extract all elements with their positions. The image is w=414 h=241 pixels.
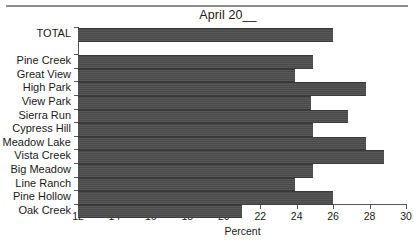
bar-label: Line Ranch — [15, 177, 71, 191]
bar-label: High Park — [23, 81, 71, 95]
bar-label: View Park — [22, 95, 71, 109]
x-axis-title: Percent — [78, 225, 407, 237]
bar-chart: April 20__ 12141618202224262830 TOTALPin… — [0, 0, 414, 241]
x-tick — [406, 205, 407, 209]
bar-row: Oak Creek — [78, 205, 406, 219]
bar-label: Great View — [17, 68, 71, 82]
bar-row: Line Ranch — [78, 178, 406, 192]
bar — [78, 96, 311, 110]
bar-label: Sierra Run — [18, 109, 71, 123]
bar — [78, 69, 295, 83]
bar-row: Meadow Lake — [78, 137, 406, 151]
chart-title: April 20__ — [0, 8, 414, 22]
bar — [78, 191, 333, 205]
bar-row: Pine Hollow — [78, 191, 406, 205]
bar-row: Cypress Hill — [78, 123, 406, 137]
bar-row: Pine Creek — [78, 55, 406, 69]
bar — [78, 137, 366, 151]
bar-row: View Park — [78, 96, 406, 110]
bar-row: TOTAL — [78, 28, 406, 42]
bar — [78, 178, 295, 192]
bar-label: Oak Creek — [18, 204, 71, 218]
bar-label: Pine Creek — [17, 54, 71, 68]
bar-label: Pine Hollow — [13, 190, 71, 204]
bar-row: Great View — [78, 69, 406, 83]
bar-label: TOTAL — [37, 27, 71, 41]
bar — [78, 150, 384, 164]
bar-label: Vista Creek — [14, 149, 71, 163]
bar-label: Big Meadow — [10, 163, 71, 177]
bar-row: High Park — [78, 82, 406, 96]
bar — [78, 110, 348, 124]
bar-label: Meadow Lake — [3, 136, 72, 150]
bar — [78, 82, 366, 96]
top-divider — [6, 5, 408, 7]
bar-label: Cypress Hill — [12, 122, 71, 136]
bar — [78, 164, 313, 178]
bar — [78, 28, 333, 42]
bar-row: Vista Creek — [78, 150, 406, 164]
bar — [78, 55, 313, 69]
bar — [78, 123, 313, 137]
bar-row: Big Meadow — [78, 164, 406, 178]
bar — [78, 205, 242, 219]
bar-row: Sierra Run — [78, 110, 406, 124]
